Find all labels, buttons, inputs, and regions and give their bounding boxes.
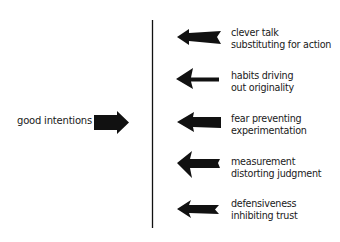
label-line-2: distorting judgment [231, 168, 321, 180]
restraining-arrow-3-icon [177, 112, 221, 132]
label-line-1: clever talk [231, 27, 331, 39]
restraining-arrow-2-icon [176, 68, 219, 89]
label-line-1: habits driving [231, 70, 294, 82]
force-field-diagram: good intentions clever talk substituting… [0, 0, 340, 242]
restraining-force-label-5: defensiveness inhibiting trust [231, 198, 297, 221]
restraining-force-label-4: measurement distorting judgment [231, 156, 321, 179]
restraining-arrow-1-icon [177, 29, 221, 45]
label-line-2: experimentation [231, 125, 307, 137]
driving-force-label: good intentions [17, 115, 92, 127]
restraining-arrow-4-icon [177, 151, 220, 178]
label-line-2: substituting for action [231, 39, 331, 51]
label-line-1: defensiveness [231, 198, 297, 210]
restraining-force-label-2: habits driving out originality [231, 70, 294, 93]
label-line-2: inhibiting trust [231, 210, 297, 222]
label-line-1: measurement [231, 156, 321, 168]
restraining-force-label-3: fear preventing experimentation [231, 113, 307, 136]
label-line-2: out originality [231, 82, 294, 94]
label-line-1: fear preventing [231, 113, 307, 125]
restraining-force-label-1: clever talk substituting for action [231, 27, 331, 50]
driving-arrow-icon [94, 111, 129, 134]
restraining-arrow-5-icon [177, 200, 219, 218]
